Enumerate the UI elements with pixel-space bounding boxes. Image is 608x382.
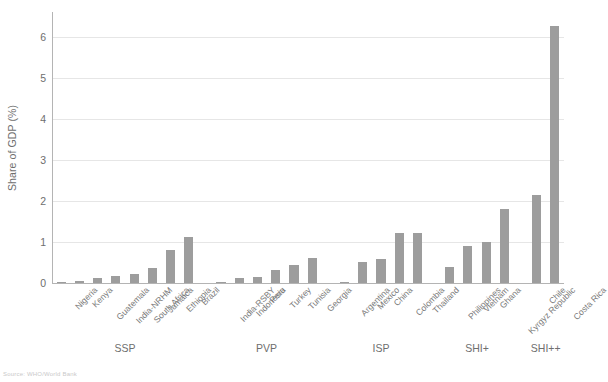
bar (271, 270, 280, 283)
y-axis-tick-label: 6 (6, 31, 46, 43)
group-label-shiplusplus: SHI++ (531, 342, 561, 354)
y-axis-tick-label: 0 (6, 277, 46, 289)
x-axis-tick-label: Costa Rica (571, 285, 608, 322)
bar (308, 258, 317, 283)
bar (358, 262, 367, 283)
x-axis-group-labels: SSPPVPISPSHI+SHI++ (52, 342, 564, 358)
bar (111, 276, 120, 283)
group-label-shiplus: SHI+ (465, 342, 489, 354)
bar-series (52, 12, 564, 283)
y-axis-tick-label: 3 (6, 154, 46, 166)
bar (550, 26, 559, 283)
y-axis-tick-label: 1 (6, 236, 46, 248)
group-label-isp: ISP (372, 342, 389, 354)
x-axis-line (52, 283, 564, 284)
bar (532, 195, 541, 283)
bar (395, 233, 404, 283)
y-axis-tick-label: 4 (6, 113, 46, 125)
bar (463, 246, 472, 283)
y-axis-tick-labels: 0123456 (0, 12, 46, 283)
group-label-ssp: SSP (114, 342, 135, 354)
bar (413, 233, 422, 283)
x-axis-tick-label-wrap: Costa Rica (571, 285, 608, 322)
bar (130, 274, 139, 283)
y-axis-tick-label: 5 (6, 72, 46, 84)
y-axis-line (52, 12, 53, 283)
bar (482, 242, 491, 283)
bar (376, 259, 385, 283)
bar (500, 209, 509, 283)
bar (289, 265, 298, 283)
bar (184, 237, 193, 283)
group-label-pvp: PVP (256, 342, 277, 354)
y-axis-tick-label: 2 (6, 195, 46, 207)
source-note: Source: WHO/World Bank (3, 371, 77, 377)
bar (148, 268, 157, 283)
bar (445, 267, 454, 283)
bar (166, 250, 175, 283)
plot-area (52, 12, 564, 283)
